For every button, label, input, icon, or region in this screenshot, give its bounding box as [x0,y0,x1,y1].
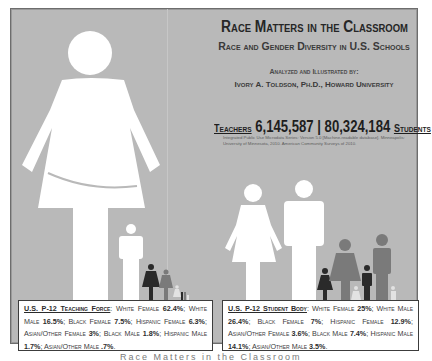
stat-value: 16.5% [43,317,63,326]
stat-label: Black Female [68,317,110,326]
stat-label: Black Female [257,317,303,326]
teachers-label: Teachers [214,122,252,134]
byline-label: Analyzed and Illustrated by: [206,68,422,75]
student-asian-male-icon [391,286,396,301]
students-label: Students [394,122,431,134]
stat-value: 7.4% [350,329,366,338]
stat-value: 1.7% [24,342,40,351]
student-black-male-icon [362,265,372,301]
teaching-force-heading: U.S. P-12 Teaching Force [24,304,110,313]
stat-value: 1.8% [143,329,159,338]
stat-label: Hispanic Female [136,317,185,326]
population-counts: Teachers 6,145,587 | 80,324,184 Students [214,118,386,136]
stat-label: Black Male [312,329,348,338]
student-body-box: U.S. P-12 Student Body: White Female 25%… [222,300,419,351]
student-black-female-icon [317,268,333,301]
teacher-hispanic-male-icon [184,292,186,300]
teacher-white-male-icon [119,224,143,301]
stat-label: Black Male [104,329,140,338]
teachers-count: 6,145,587 [255,118,313,135]
stat-label: Hispanic Male [371,329,414,338]
stat-value: 12.9% [391,317,411,326]
student-hispanic-male-icon [373,234,391,301]
student-body-heading: U.S. P-12 Student Body [228,304,307,313]
citation: Integrated Public Use Microdata Series: … [223,135,413,147]
teacher-asian-female-icon [173,285,181,297]
teacher-hispanic-female-icon [159,270,173,301]
bottom-caption: Race Matters in the Classroom [120,352,302,361]
student-asian-female-icon [351,286,361,300]
teacher-white-female-icon [22,31,160,303]
stat-label: White Female [116,304,159,313]
student-white-male-icon [284,180,324,301]
stat-value: 3.6% [291,329,307,338]
stat-value: 3% [89,329,99,338]
teacher-black-female-icon [142,264,160,300]
page-subtitle: Race and Gender Diversity in U.S. School… [200,40,428,52]
stat-label: White Female [312,304,354,313]
stat-label: Asian/Other Male [44,342,99,351]
counts-separator: | [317,118,321,135]
stat-label: White Male [377,304,414,313]
page-title: Race Matters in the Classroom [221,18,407,36]
stat-value: 7% [311,317,321,326]
student-white-female-icon [225,184,282,301]
stat-label: Hispanic Female [330,317,383,326]
teaching-force-box: U.S. P-12 Teaching Force: White Female 6… [18,300,213,351]
stat-value: 26.4% [228,317,248,326]
author-name: Ivory A. Toldson, Ph.D., Howard Universi… [200,80,428,89]
stat-value: 7.5% [114,317,130,326]
stat-value: 62.4% [163,304,183,313]
stat-value: 14.1% [228,342,248,351]
stat-value: 3.5% [309,342,325,351]
teacher-black-male-icon [181,292,183,300]
stat-value: 25% [357,304,371,313]
stat-label: Asian/Other Male [252,342,307,351]
stat-label: Asian/Other Female [24,329,86,338]
students-count: 80,324,184 [325,118,391,135]
stat-label: Hispanic Male [164,329,207,338]
stat-value: .7% [101,342,113,351]
stat-value: 6.3% [189,317,205,326]
stat-label: Asian/Other Female [228,329,289,338]
